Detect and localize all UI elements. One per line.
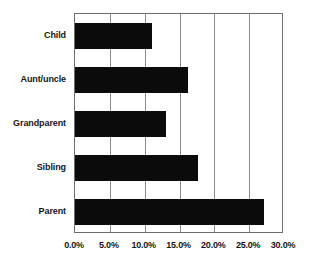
y-axis-category-labels: Child Aunt/uncle Grandparent Sibling Par… <box>0 13 70 233</box>
y-axis-label-auntuncle: Aunt/uncle <box>0 74 66 84</box>
y-axis-label-child: Child <box>0 30 66 40</box>
bar-chart: Child Aunt/uncle Grandparent Sibling Par… <box>0 0 312 277</box>
bar-child <box>75 23 152 49</box>
bar-auntuncle <box>75 67 188 93</box>
y-axis-label-grandparent: Grandparent <box>0 118 66 128</box>
bar-parent <box>75 199 264 225</box>
y-axis-label-sibling: Sibling <box>0 162 66 172</box>
bar-series <box>75 14 282 232</box>
x-tick-label-30: 30.0% <box>260 240 306 251</box>
bar-sibling <box>75 155 198 181</box>
bar-grandparent <box>75 111 166 137</box>
plot-area <box>74 13 283 233</box>
x-axis-tick-labels: 0.0% 5.0% 10.0% 15.0% 20.0% 25.0% 30.0% <box>74 240 283 254</box>
y-axis-label-parent: Parent <box>0 206 66 216</box>
